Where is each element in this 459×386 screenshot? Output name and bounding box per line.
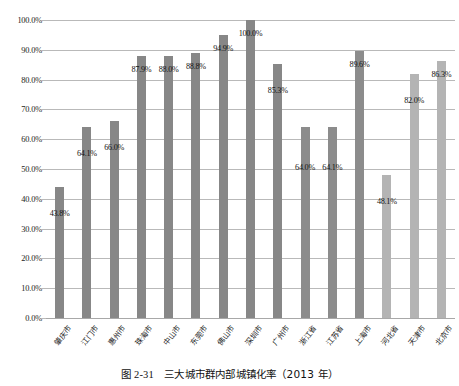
bar	[246, 20, 255, 318]
y-axis-tick-label: 30.0%	[0, 224, 42, 233]
bar-value-label: 86.3%	[431, 70, 451, 79]
y-axis-tick-label: 10.0%	[0, 284, 42, 293]
y-axis-tick-label: 100.0%	[0, 16, 42, 25]
figure-caption: 图 2-31 三大城市群内部城镇化率（2013 年）	[0, 366, 459, 381]
bar-value-label: 85.3%	[268, 86, 288, 95]
bar	[273, 64, 282, 318]
x-axis-category-label: 浙江省	[296, 322, 319, 347]
bar	[55, 187, 64, 318]
bar-value-label: 64.0%	[295, 163, 315, 172]
y-axis-tick-label: 50.0%	[0, 165, 42, 174]
x-axis-category-label: 北京市	[432, 322, 455, 347]
bar-value-label: 64.1%	[322, 163, 342, 172]
y-axis-tick-label: 0.0%	[0, 314, 42, 323]
bar-value-label: 94.9%	[213, 44, 233, 53]
bar	[437, 61, 446, 318]
x-axis-category-label: 江门市	[78, 322, 101, 347]
plot-area: 43.8%64.1%66.0%87.9%88.0%88.8%94.9%100.0…	[46, 20, 455, 318]
x-axis-category-label: 河北省	[378, 322, 401, 347]
bar	[164, 56, 173, 318]
bar	[137, 56, 146, 318]
x-axis-category-label: 天津市	[405, 322, 428, 347]
bar-value-label: 43.8%	[50, 209, 70, 218]
bar-value-label: 87.9%	[131, 65, 151, 74]
x-axis-category-label: 佛山市	[214, 322, 237, 347]
y-axis-tick-label: 20.0%	[0, 254, 42, 263]
x-axis-category-label: 惠州市	[105, 322, 128, 347]
x-axis-category-label: 东莞市	[187, 322, 210, 347]
caption-gap	[154, 368, 164, 380]
bar-value-label: 82.0%	[404, 96, 424, 105]
y-axis-tick-label: 80.0%	[0, 75, 42, 84]
bar-value-label: 64.1%	[77, 149, 97, 158]
bar	[219, 35, 228, 318]
x-axis-category-label: 肇庆市	[50, 322, 73, 347]
bar-value-label: 100.0%	[239, 29, 263, 38]
gridline	[46, 318, 455, 319]
y-axis-tick-label: 60.0%	[0, 135, 42, 144]
bar-value-label: 89.6%	[350, 60, 370, 69]
bar	[328, 127, 337, 318]
x-axis-category-label: 珠海市	[132, 322, 155, 347]
bar	[355, 51, 364, 318]
x-axis-category-label: 上海市	[350, 322, 373, 347]
bar	[301, 127, 310, 318]
bar-value-label: 88.8%	[186, 62, 206, 71]
caption-number: 图 2-31	[121, 369, 154, 380]
x-axis-category-label: 深圳市	[241, 322, 264, 347]
y-axis: 100.0%90.0%80.0%70.0%60.0%50.0%40.0%30.0…	[0, 20, 42, 318]
bar-value-label: 88.0%	[159, 65, 179, 74]
y-axis-tick-label: 90.0%	[0, 45, 42, 54]
bar	[191, 53, 200, 318]
bar	[410, 74, 419, 318]
caption-text: 三大城市群内部城镇化率（2013 年）	[164, 368, 338, 380]
x-axis-category-label: 江苏省	[323, 322, 346, 347]
y-axis-tick-label: 40.0%	[0, 194, 42, 203]
y-axis-tick-label: 70.0%	[0, 105, 42, 114]
bar-value-label: 48.1%	[377, 197, 397, 206]
x-axis-labels: 肇庆市江门市惠州市珠海市中山市东莞市佛山市深圳市广州市浙江省江苏省上海市河北省天…	[46, 320, 455, 364]
bar-value-label: 66.0%	[104, 143, 124, 152]
figure-container: 100.0%90.0%80.0%70.0%60.0%50.0%40.0%30.0…	[0, 0, 459, 386]
x-axis-category-label: 广州市	[269, 322, 292, 347]
x-axis-category-label: 中山市	[159, 322, 182, 347]
